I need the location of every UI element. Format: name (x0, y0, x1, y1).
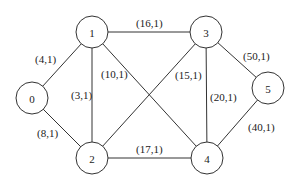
node-5: 5 (252, 72, 284, 104)
edge-labels-layer: (4,1)(8,1)(16,1)(3,1)(10,1)(15,1)(20,1)(… (35, 17, 275, 156)
graph-diagram: (4,1)(8,1)(16,1)(3,1)(10,1)(15,1)(20,1)(… (0, 0, 304, 186)
edge-3-4 (206, 32, 207, 158)
edge-label-4-5: (40,1) (248, 121, 275, 134)
node-2: 2 (76, 142, 108, 174)
edge-label-0-2: (8,1) (37, 127, 58, 140)
edge-label-3-4: (20,1) (210, 91, 237, 104)
edge-label-3-5: (50,1) (243, 50, 270, 63)
node-3: 3 (190, 16, 222, 48)
edge-label-1-2: (3,1) (71, 89, 92, 102)
edge-label-2-3: (15,1) (175, 69, 202, 82)
edge-label-0-1: (4,1) (35, 53, 56, 66)
node-0: 0 (16, 82, 48, 114)
edge-label-2-4: (17,1) (136, 143, 163, 156)
node-label: 4 (204, 153, 210, 165)
node-label: 3 (203, 27, 209, 39)
node-label: 1 (89, 27, 95, 39)
node-label: 0 (29, 93, 35, 105)
node-label: 5 (265, 83, 271, 95)
graph-svg: (4,1)(8,1)(16,1)(3,1)(10,1)(15,1)(20,1)(… (0, 0, 304, 186)
node-1: 1 (76, 16, 108, 48)
node-4: 4 (191, 142, 223, 174)
edge-label-1-4: (10,1) (101, 68, 128, 81)
edge-label-1-3: (16,1) (136, 17, 163, 30)
node-label: 2 (89, 153, 95, 165)
